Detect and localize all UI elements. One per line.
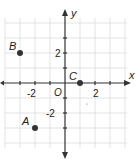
- point-a: A: [21, 115, 38, 131]
- x-tick-label-2: 2: [93, 88, 99, 99]
- y-axis: [63, 12, 67, 156]
- x-axis-label: x: [128, 69, 135, 81]
- y-axis-down-arrow-icon: [62, 152, 68, 159]
- y-tick-label-2: 2: [55, 48, 61, 59]
- point-c-label: C: [69, 70, 77, 82]
- y-axis-label: y: [70, 7, 78, 19]
- coordinate-plane: x y O -2 2 2 -2 B C A: [0, 0, 137, 161]
- point-b: B: [9, 40, 23, 56]
- origin-label: O: [54, 87, 62, 98]
- x-tick-label-neg2: -2: [27, 88, 36, 99]
- y-tick-label-neg2: -2: [46, 108, 55, 119]
- point-b-label: B: [9, 40, 16, 52]
- stray-mark: [86, 103, 87, 104]
- y-axis-arrow-icon: [62, 9, 68, 16]
- point-a-label: A: [21, 115, 29, 127]
- x-axis-left-arrow-icon: [0, 81, 4, 86]
